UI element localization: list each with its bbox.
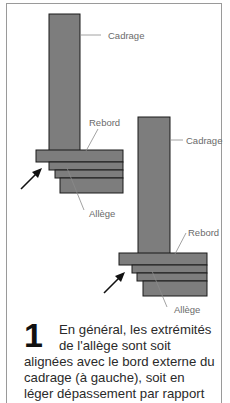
left-cadrage — [49, 14, 80, 151]
right-cadrage — [138, 117, 170, 254]
right-allege-3 — [143, 281, 207, 296]
left-rebord-label: Rebord — [89, 117, 120, 128]
caption-number: 1 — [24, 321, 43, 349]
caption-line-4: cadrage (à gauche), soit en — [24, 370, 185, 386]
right-allege-1 — [132, 265, 207, 273]
left-cadrage-label: Cadrage — [108, 30, 144, 41]
right-allege-label: Allège — [174, 304, 200, 315]
caption-line-3: alignées avec le bord externe du — [24, 354, 215, 370]
right-rebord — [119, 253, 207, 265]
right-rebord-label: Rebord — [188, 227, 219, 238]
right-cadrage-label: Cadrage — [186, 135, 222, 146]
right-assembly: Cadrage Rebord Allège — [104, 117, 222, 315]
left-allege-2 — [55, 170, 123, 178]
left-rebord — [36, 150, 123, 162]
left-allege-label: Allège — [89, 208, 115, 219]
left-allege-3 — [60, 178, 123, 193]
left-allege-1 — [49, 162, 123, 170]
right-arrow-icon — [104, 272, 125, 293]
right-allege-2 — [137, 273, 207, 281]
caption-line-1: En général, les extrémités — [59, 322, 211, 338]
caption-line-5: léger dépassement par rapport — [24, 386, 204, 402]
left-assembly: Cadrage Rebord Allège — [21, 14, 144, 219]
left-arrow-icon — [21, 168, 42, 189]
caption-line-2: de l'allège sont soit — [59, 338, 171, 354]
